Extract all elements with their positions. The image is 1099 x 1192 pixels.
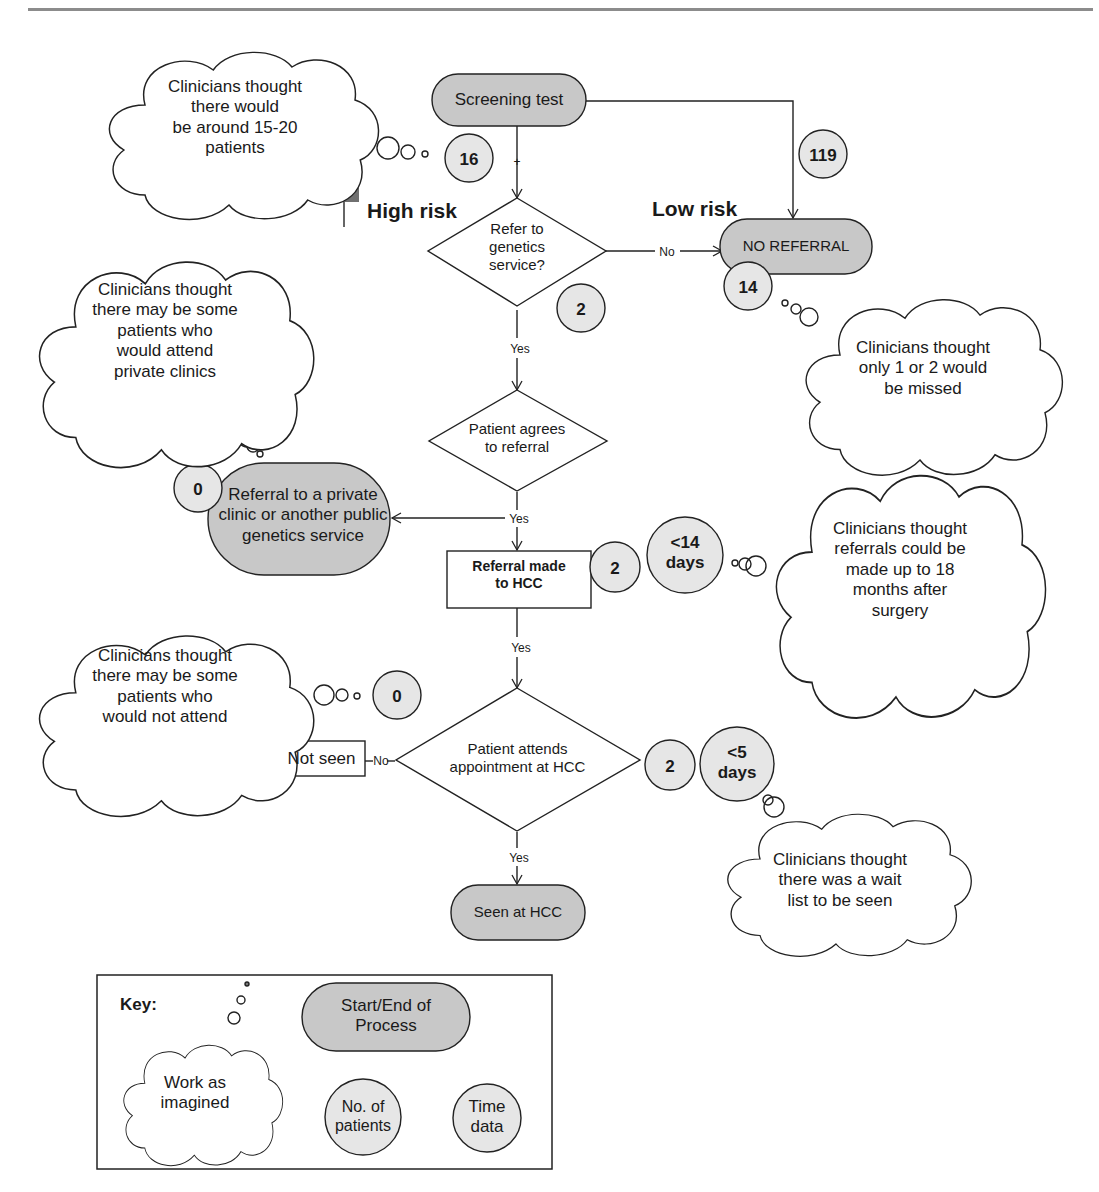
private-referral-label: Referral to a private clinic or another … bbox=[208, 485, 398, 546]
count-low-risk: 119 bbox=[809, 146, 836, 165]
count-refer: 2 bbox=[576, 300, 585, 319]
edge-label-agrees-yes: Yes bbox=[509, 512, 529, 526]
count-high-risk: 16 bbox=[460, 150, 479, 169]
seen-at-hcc-label: Seen at HCC bbox=[451, 903, 585, 921]
key-title: Key: bbox=[120, 995, 157, 1014]
cloud-wait-list-text: Clinicians thought there was a wait list… bbox=[740, 850, 940, 911]
edge-label-attends-no: No bbox=[373, 754, 389, 768]
cloud-referral-time-text: Clinicians thought referrals could be ma… bbox=[790, 519, 1010, 621]
count-attends: 2 bbox=[665, 757, 674, 776]
high-risk-label: High risk bbox=[367, 199, 457, 222]
count-private: 0 bbox=[193, 480, 202, 499]
cloud-screening-text: Clinicians thought there would be around… bbox=[130, 77, 340, 159]
low-risk-label: Low risk bbox=[652, 197, 738, 220]
time-14-days-label: <14 days bbox=[647, 533, 723, 574]
key-terminal-label: Start/End of Process bbox=[302, 996, 470, 1037]
edge-label-made-yes: Yes bbox=[511, 641, 531, 655]
key-patients-label: No. of patients bbox=[323, 1097, 403, 1135]
screening-test-label: Screening test bbox=[432, 90, 586, 110]
key-time-label: Time data bbox=[453, 1097, 521, 1138]
patient-agrees-label: Patient agrees to referral bbox=[437, 420, 597, 456]
patient-attends-label: Patient attends appointment at HCC bbox=[420, 740, 615, 776]
edge-label-refer-no: No bbox=[659, 245, 675, 259]
count-no-referral: 14 bbox=[739, 278, 758, 297]
count-referral-made: 2 bbox=[610, 559, 619, 578]
count-not-attend: 0 bbox=[392, 687, 401, 706]
refer-decision-label: Refer to genetics service? bbox=[452, 220, 582, 274]
cloud-not-attend-text: Clinicians thought there may be some pat… bbox=[55, 646, 275, 728]
time-5-days-label: <5 days bbox=[700, 743, 774, 784]
edge-label-plus: + bbox=[513, 155, 520, 169]
no-referral-label: NO REFERRAL bbox=[720, 237, 872, 255]
edge-label-attends-yes: Yes bbox=[509, 851, 529, 865]
key-cloud-label: Work as imagined bbox=[130, 1073, 260, 1114]
cloud-missed-text: Clinicians thought only 1 or 2 would be … bbox=[818, 338, 1028, 399]
not-seen-label: Not seen bbox=[278, 749, 365, 769]
referral-made-label: Referral made to HCC bbox=[447, 558, 591, 592]
cloud-private-text: Clinicians thought there may be some pat… bbox=[55, 280, 275, 382]
edge-label-refer-yes: Yes bbox=[510, 342, 530, 356]
